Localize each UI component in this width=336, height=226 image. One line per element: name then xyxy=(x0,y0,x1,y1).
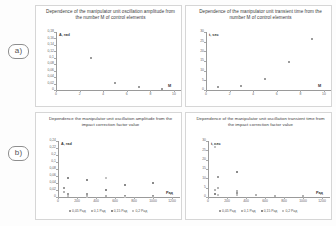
legend-item: 0,2 Рад xyxy=(282,209,297,213)
x-tick-label: 400 xyxy=(90,200,102,204)
y-tick-label: 30 xyxy=(192,139,206,143)
data-point xyxy=(240,85,242,87)
data-point xyxy=(214,143,216,145)
data-point xyxy=(105,189,107,191)
data-point xyxy=(124,184,126,186)
data-point xyxy=(217,187,219,189)
x-tick-mark xyxy=(80,90,81,92)
chart-panel-top-left: Dependence of the manipulator unit oscil… xyxy=(35,5,182,107)
data-point xyxy=(86,179,88,181)
y-axis-line xyxy=(206,32,207,90)
legend-item: 0,15 Рад xyxy=(261,209,278,213)
y-tick-label: 0,04 xyxy=(42,181,56,185)
legend-label: 0,2 Рад xyxy=(285,209,297,213)
y-tick-mark xyxy=(56,169,58,170)
x-tick-label: 800 xyxy=(128,200,140,204)
plot-area: 302520151050020040060080010001200t, secР… xyxy=(208,141,322,197)
legend-swatch xyxy=(132,210,134,212)
y-tick-label: 20 xyxy=(190,50,204,54)
y-tick-mark xyxy=(204,71,206,72)
x-tick-label: 600 xyxy=(109,200,121,204)
x-tick-mark xyxy=(206,90,207,92)
y-tick-label: 0,2 xyxy=(42,153,56,157)
x-tick-mark xyxy=(77,197,78,199)
x-tick-label: 1000 xyxy=(297,200,309,204)
y-tick-mark xyxy=(54,84,56,85)
y-tick-mark xyxy=(204,80,206,81)
data-point xyxy=(217,194,219,196)
figure-canvas: a) b) Dependence of the manipulator unit… xyxy=(0,0,336,226)
x-tick-label: 0 xyxy=(52,200,64,204)
x-tick-label: 1200 xyxy=(166,200,178,204)
y-tick-mark xyxy=(56,162,58,163)
data-point xyxy=(90,57,92,59)
data-point xyxy=(217,176,219,178)
data-point xyxy=(217,86,219,88)
legend-label: 0,1 Рад xyxy=(244,209,256,213)
row-label-b: b) xyxy=(8,146,29,161)
plot-area: 0,240,220,20,10,080,060,040,020020040060… xyxy=(58,141,172,197)
data-point xyxy=(67,177,69,179)
legend-item: 0,1 Рад xyxy=(241,209,256,213)
x-axis-label: Рад xyxy=(316,191,323,195)
plot-area: 3025201510500246810t, secM xyxy=(206,32,324,90)
x-axis-line xyxy=(56,90,182,91)
y-tick-label: 0,02 xyxy=(40,82,54,86)
y-tick-mark xyxy=(54,38,56,39)
x-tick-label: 1000 xyxy=(147,200,159,204)
x-tick-label: 6 xyxy=(271,93,283,97)
data-point xyxy=(152,182,154,184)
data-point xyxy=(138,86,140,88)
y-tick-label: 0,18 xyxy=(40,30,54,34)
y-axis-line xyxy=(56,32,57,90)
data-point xyxy=(214,189,216,191)
y-tick-mark xyxy=(206,150,208,151)
chart-panel-top-right: Dependence of the manipulator unit trans… xyxy=(185,5,332,107)
x-axis-label: M xyxy=(318,84,321,88)
y-tick-mark xyxy=(56,190,58,191)
chart-panel-bottom-left: Dependence the manipulator unit oscillat… xyxy=(35,112,182,220)
y-tick-label: 20 xyxy=(192,158,206,162)
x-tick-label: 2 xyxy=(224,93,236,97)
x-tick-mark xyxy=(172,197,173,199)
data-point xyxy=(236,171,238,173)
y-tick-label: 0,1 xyxy=(40,56,54,60)
y-tick-mark xyxy=(54,77,56,78)
y-tick-mark xyxy=(56,148,58,149)
legend-label: 0,15 Рад xyxy=(114,209,128,213)
y-tick-label: 0,16 xyxy=(40,37,54,41)
y-tick-mark xyxy=(204,32,206,33)
legend-label: 0,2 Рад xyxy=(135,209,147,213)
y-tick-label: 0 xyxy=(42,195,56,199)
x-tick-mark xyxy=(265,197,266,199)
y-tick-label: 0,22 xyxy=(42,146,56,150)
x-tick-label: 400 xyxy=(240,200,252,204)
data-point xyxy=(105,195,107,197)
x-tick-label: 8 xyxy=(144,93,156,97)
legend-label: 0,05 Рад xyxy=(72,209,86,213)
data-point xyxy=(152,196,154,198)
y-tick-mark xyxy=(204,61,206,62)
x-tick-mark xyxy=(58,197,59,199)
y-tick-label: 0,04 xyxy=(40,75,54,79)
y-tick-mark xyxy=(206,188,208,189)
y-tick-mark xyxy=(56,141,58,142)
x-tick-mark xyxy=(300,90,301,92)
x-tick-mark xyxy=(208,197,209,199)
legend-item: 0,1 Рад xyxy=(91,209,106,213)
y-axis-line xyxy=(58,141,59,197)
y-tick-label: 0 xyxy=(190,88,204,92)
data-point xyxy=(114,82,116,84)
x-tick-label: 0 xyxy=(200,93,212,97)
data-point xyxy=(67,34,69,36)
x-tick-label: 0 xyxy=(50,93,62,97)
y-tick-mark xyxy=(56,155,58,156)
y-tick-label: 0 xyxy=(192,195,206,199)
x-tick-label: 800 xyxy=(278,200,290,204)
y-axis-label: t, sec xyxy=(211,142,221,146)
x-tick-label: 2 xyxy=(74,93,86,97)
y-axis-label: A, rad xyxy=(61,142,72,146)
chart-title: Dependence of the manipulator unit oscil… xyxy=(44,9,177,21)
x-tick-mark xyxy=(115,197,116,199)
y-tick-label: 25 xyxy=(192,149,206,153)
